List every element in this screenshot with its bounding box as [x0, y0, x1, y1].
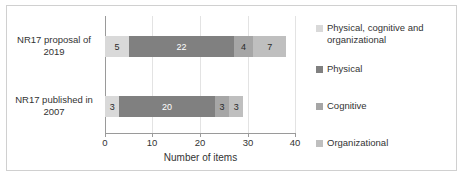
bar-value-label: 3: [234, 102, 239, 112]
x-tick-label: 0: [90, 137, 120, 148]
bar-segment[interactable]: 7: [253, 36, 286, 57]
gridline-40: [295, 16, 296, 133]
bar-value-label: 20: [162, 102, 172, 112]
bar-segment[interactable]: 4: [234, 36, 253, 57]
bar-segment[interactable]: 5: [105, 36, 129, 57]
bar-row[interactable]: 3 20 3 3: [105, 96, 243, 117]
bar-segment[interactable]: 3: [215, 96, 229, 117]
x-tick-label: 40: [280, 137, 310, 148]
chart-container: NR17 proposal of 2019 NR17 published in …: [0, 0, 463, 180]
legend-item[interactable]: Organizational: [316, 137, 388, 149]
x-axis-title: Number of items: [105, 152, 296, 163]
bar-segment[interactable]: 3: [105, 96, 119, 117]
bar-row[interactable]: 5 22 4 7: [105, 36, 286, 57]
bar-value-label: 4: [241, 42, 246, 52]
gridline-30: [248, 16, 249, 133]
bar-segment[interactable]: 22: [129, 36, 234, 57]
legend-item[interactable]: Physical, cognitive and organizational: [316, 22, 452, 46]
bar-value-label: 5: [114, 42, 119, 52]
legend-label: Organizational: [327, 137, 388, 149]
legend-item[interactable]: Physical: [316, 63, 362, 75]
x-tick-label: 20: [185, 137, 215, 148]
legend-label: Cognitive: [327, 100, 367, 112]
bar-value-label: 3: [110, 102, 115, 112]
bar-value-label: 22: [176, 42, 186, 52]
bar-segment[interactable]: 3: [229, 96, 243, 117]
bar-value-label: 7: [267, 42, 272, 52]
legend-swatch-icon: [316, 140, 323, 147]
legend-swatch-icon: [316, 25, 323, 32]
legend-swatch-icon: [316, 103, 323, 110]
legend-swatch-icon: [316, 66, 323, 73]
bar-segment[interactable]: 20: [119, 96, 215, 117]
legend-item[interactable]: Cognitive: [316, 100, 367, 112]
x-tick-label: 30: [233, 137, 263, 148]
bar-value-label: 3: [219, 102, 224, 112]
legend-label: Physical: [327, 63, 362, 75]
x-tick-label: 10: [137, 137, 167, 148]
legend-label: Physical, cognitive and organizational: [327, 22, 452, 46]
category-label-2: NR17 published in 2007: [6, 94, 102, 118]
category-label-1: NR17 proposal of 2019: [6, 34, 102, 58]
